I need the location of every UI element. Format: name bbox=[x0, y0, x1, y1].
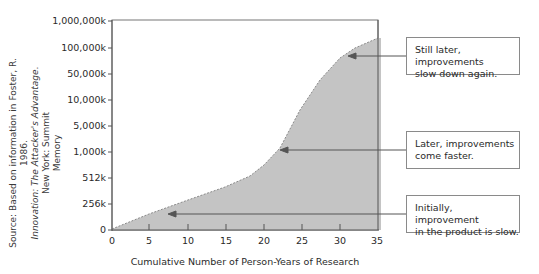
y-axis-ticks bbox=[108, 21, 112, 230]
svg-text:512k: 512k bbox=[82, 172, 106, 183]
callout-text-line: in the product is slow. bbox=[415, 226, 519, 238]
callout-slow-down-again: Still later, improvements slow down agai… bbox=[406, 37, 520, 75]
svg-text:0: 0 bbox=[100, 224, 106, 235]
svg-text:35: 35 bbox=[371, 235, 383, 246]
svg-text:100,000k: 100,000k bbox=[61, 42, 106, 53]
callout-text-line: Later, improvements bbox=[415, 138, 519, 150]
svg-text:5,000k: 5,000k bbox=[73, 120, 106, 131]
svg-text:15: 15 bbox=[220, 235, 232, 246]
svg-text:50,000k: 50,000k bbox=[67, 68, 106, 79]
source-line-1: Source: Based on information in Foster, … bbox=[8, 58, 30, 248]
svg-text:10,000k: 10,000k bbox=[67, 94, 106, 105]
svg-text:1,000k: 1,000k bbox=[73, 146, 106, 157]
source-line-2: Innovation: The Attacker's Advantage. Ne… bbox=[30, 58, 52, 248]
x-axis-tick-labels: 0 5 10 15 20 25 30 35 bbox=[109, 235, 383, 246]
callout-come-faster: Later, improvements come faster. bbox=[406, 131, 520, 169]
svg-text:256k: 256k bbox=[82, 198, 106, 209]
callout-text-line: Initially, improvement bbox=[415, 202, 519, 226]
source-line-3: Memory bbox=[52, 58, 63, 248]
s-curve-area bbox=[112, 38, 381, 230]
x-axis-label: Cumulative Number of Person-Years of Res… bbox=[112, 256, 378, 267]
callout-text-line: slow down again. bbox=[415, 68, 519, 80]
svg-text:5: 5 bbox=[146, 235, 152, 246]
svg-text:0: 0 bbox=[109, 235, 115, 246]
svg-text:25: 25 bbox=[296, 235, 308, 246]
svg-text:30: 30 bbox=[334, 235, 346, 246]
svg-text:1,000,000k: 1,000,000k bbox=[52, 15, 106, 26]
callout-text-line: Still later, improvements bbox=[415, 44, 519, 68]
svg-text:20: 20 bbox=[258, 235, 270, 246]
source-book-title: Innovation: The Attacker's Advantage bbox=[30, 69, 40, 239]
source-note: Source: Based on information in Foster, … bbox=[8, 58, 63, 248]
svg-text:10: 10 bbox=[182, 235, 194, 246]
callout-initially-slow: Initially, improvement in the product is… bbox=[406, 195, 520, 233]
callout-text-line: come faster. bbox=[415, 150, 519, 162]
